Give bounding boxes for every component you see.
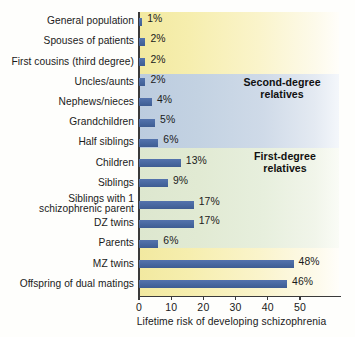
x-tick-label-40: 40 xyxy=(255,301,281,313)
x-tick-20 xyxy=(203,296,204,300)
bar xyxy=(139,78,145,86)
category-label-line1: First cousins (third degree) xyxy=(11,56,134,67)
category-label: Siblings with 1schizophrenic parent xyxy=(0,194,134,215)
bar-row: Siblings9% xyxy=(0,174,355,194)
bar-row: DZ twins17% xyxy=(0,214,355,234)
bar xyxy=(139,280,287,288)
category-label: Half siblings xyxy=(0,137,134,148)
bar-row: Children13% xyxy=(0,153,355,173)
bar-row: Offspring of dual matings46% xyxy=(0,275,355,295)
bar xyxy=(139,139,158,147)
bar xyxy=(139,98,152,106)
category-label: Uncles/aunts xyxy=(0,77,134,88)
x-tick-label-0: 0 xyxy=(126,301,152,313)
category-label: MZ twins xyxy=(0,259,134,270)
bar-row: Parents6% xyxy=(0,234,355,254)
bar xyxy=(139,159,181,167)
x-axis-title: Lifetime risk of developing schizophreni… xyxy=(108,316,355,327)
x-tick-50 xyxy=(299,296,300,300)
bar-value-label: 2% xyxy=(150,74,165,85)
category-label-line1: MZ twins xyxy=(93,258,134,269)
x-tick-30 xyxy=(235,296,236,300)
category-label-line1: Half siblings xyxy=(78,136,134,147)
bar-value-label: 2% xyxy=(150,54,165,65)
category-label: General population xyxy=(0,16,134,27)
x-tick-10 xyxy=(171,296,172,300)
category-label-line1: Siblings xyxy=(98,177,134,188)
category-label-line1: Uncles/aunts xyxy=(75,76,135,87)
bar xyxy=(139,18,142,26)
x-tick-label-20: 20 xyxy=(190,301,216,313)
bar-row: Spouses of patients2% xyxy=(0,32,355,52)
bar-value-label: 6% xyxy=(163,134,178,145)
category-label-line1: Nephews/nieces xyxy=(59,96,134,107)
bar-value-label: 13% xyxy=(186,155,207,166)
bar xyxy=(139,179,168,187)
bar xyxy=(139,38,145,46)
bar-value-label: 17% xyxy=(199,215,220,226)
bar-value-label: 48% xyxy=(299,256,320,267)
category-label-line1: General population xyxy=(47,15,134,26)
bar xyxy=(139,220,194,228)
bar-row: Uncles/aunts2% xyxy=(0,73,355,93)
x-tick-40 xyxy=(267,296,268,300)
bar-value-label: 17% xyxy=(199,196,220,207)
category-label: Offspring of dual matings xyxy=(0,279,134,290)
bar-row: MZ twins48% xyxy=(0,254,355,274)
category-label-line1: Parents xyxy=(99,237,134,248)
bar-row: General population1% xyxy=(0,12,355,32)
bar-value-label: 1% xyxy=(147,13,162,24)
bar-value-label: 46% xyxy=(292,276,313,287)
bar xyxy=(139,119,155,127)
bar-row: First cousins (third degree)2% xyxy=(0,52,355,72)
category-label-line1: DZ twins xyxy=(94,217,134,228)
category-label-line1: Siblings with 1 xyxy=(68,193,134,204)
category-label: Grandchildren xyxy=(0,117,134,128)
category-label: Nephews/nieces xyxy=(0,97,134,108)
category-label: First cousins (third degree) xyxy=(0,57,134,68)
category-label: DZ twins xyxy=(0,218,134,229)
bar xyxy=(139,58,145,66)
category-label-line1: Spouses of patients xyxy=(44,35,134,46)
category-label: Children xyxy=(0,158,134,169)
x-tick-label-50: 50 xyxy=(287,301,313,313)
bar-row: Nephews/nieces4% xyxy=(0,93,355,113)
bar xyxy=(139,240,158,248)
x-tick-label-10: 10 xyxy=(158,301,184,313)
category-label-line2: schizophrenic parent xyxy=(39,203,134,214)
category-label-line1: Children xyxy=(96,157,134,168)
bar-row: Half siblings6% xyxy=(0,133,355,153)
x-tick-0 xyxy=(138,296,139,300)
bar-value-label: 9% xyxy=(173,175,188,186)
bar xyxy=(139,201,194,209)
bar-value-label: 6% xyxy=(163,235,178,246)
x-axis-line xyxy=(139,296,341,297)
bar-row: Siblings with 1schizophrenic parent17% xyxy=(0,194,355,214)
bar-row: Grandchildren5% xyxy=(0,113,355,133)
category-label-line1: Grandchildren xyxy=(69,116,134,127)
x-tick-label-30: 30 xyxy=(223,301,249,313)
category-label: Siblings xyxy=(0,178,134,189)
category-label: Spouses of patients xyxy=(0,36,134,47)
bar-value-label: 5% xyxy=(160,114,175,125)
schizophrenia-risk-bar-chart: Second-degree relatives First-degree rel… xyxy=(0,0,355,337)
category-label-line1: Offspring of dual matings xyxy=(20,278,134,289)
bar-value-label: 2% xyxy=(150,33,165,44)
bar xyxy=(139,260,294,268)
category-label: Parents xyxy=(0,238,134,249)
bar-value-label: 4% xyxy=(157,94,172,105)
